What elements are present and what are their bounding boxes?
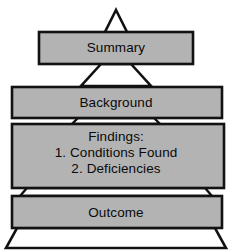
band-findings[interactable]: [12, 124, 224, 188]
pyramid-bands: [12, 32, 224, 228]
band-outcome[interactable]: [12, 196, 222, 228]
band-summary[interactable]: [39, 32, 193, 64]
band-background[interactable]: [12, 87, 222, 118]
pyramid-base: [6, 228, 226, 248]
pyramid-diagram: Summary Background Findings: 1. Conditio…: [0, 0, 232, 252]
pyramid-graphic: [0, 0, 232, 252]
pyramid-slice-upper: [81, 64, 151, 86]
